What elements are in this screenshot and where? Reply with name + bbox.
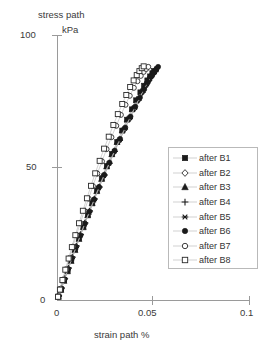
legend-marker-plus-icon [172,195,198,209]
data-point [145,80,150,85]
data-point [69,245,74,250]
data-point [66,256,71,261]
legend-marker-open-diamond-icon [172,166,198,180]
y-axis-tick-label-0: 0 [40,295,45,305]
y-axis-tick-label-50: 50 [26,162,37,172]
data-point [137,95,142,100]
legend-item-label: after B8 [198,255,231,265]
data-point [141,64,146,69]
stress-path-chart: stress path kPa 100 50 0 0 0.05 0.1 stra… [0,0,269,358]
data-point [93,171,98,176]
legend-marker-star-icon [172,210,198,224]
legend-item-label: after B1 [198,153,231,163]
legend-item: after B1 [169,151,257,166]
data-point [87,209,92,214]
data-point [142,87,147,92]
data-series [56,67,159,299]
x-axis-tick-label-01: 0.1 [240,308,253,318]
legend-item: after B7 [169,239,257,254]
legend-item: after B2 [169,166,257,181]
data-point [128,114,133,119]
data-point [88,183,93,188]
data-point [73,233,78,238]
data-point [118,136,123,141]
data-series [56,68,158,299]
data-point [120,102,125,107]
data-series-group [55,64,160,299]
legend-marker-filled-square-icon [172,151,198,165]
chart-legend: after B1after B2after B3after B4after B5… [168,147,258,269]
y-axis-tick-label-100: 100 [20,30,36,40]
legend-marker-filled-triangle-icon [172,180,198,194]
data-point [102,172,107,177]
chart-title: stress path [38,10,84,20]
legend-item: after B5 [169,209,257,224]
data-point [123,125,128,130]
data-series [56,69,157,299]
data-point [92,197,97,202]
x-axis-tick-label-005: 0.05 [138,308,157,318]
data-point [60,278,65,283]
data-point [111,123,116,128]
data-point [97,184,102,189]
data-point [63,267,68,272]
data-point [55,294,60,299]
legend-item-label: after B6 [198,226,231,236]
legend-marker-filled-circle-icon [172,224,198,238]
x-axis-label: strain path % [94,330,149,340]
data-point [124,93,129,98]
data-point [107,160,112,165]
legend-item-label: after B4 [198,197,231,207]
data-point [106,134,111,139]
data-series [55,66,158,299]
legend-item-label: after B5 [198,212,231,222]
legend-item: after B3 [169,180,257,195]
legend-item-label: after B2 [198,168,231,178]
legend-marker-open-circle-icon [172,239,198,253]
data-point [102,146,107,151]
data-point [57,287,62,292]
data-point [131,78,136,83]
data-point [84,196,89,201]
data-point [97,158,102,163]
data-point [112,148,117,153]
data-point [133,104,138,109]
legend-item: after B8 [169,253,257,268]
legend-marker-open-square-icon [172,253,198,267]
data-point [115,112,120,117]
data-point [77,221,82,226]
data-point [128,85,133,90]
legend-item-label: after B3 [198,182,231,192]
legend-item-label: after B7 [198,241,231,251]
data-point [156,64,161,69]
x-axis-tick-label-0: 0 [54,308,59,318]
chart-title-unit: kPa [62,25,78,35]
legend-item: after B6 [169,224,257,239]
legend-item: after B4 [169,195,257,210]
data-point [80,208,85,213]
